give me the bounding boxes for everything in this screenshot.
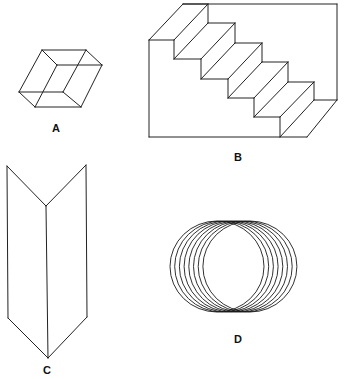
figure-edge	[174, 4, 208, 40]
figure-edge	[63, 50, 86, 92]
figure-edge	[81, 65, 102, 107]
figure-a-rhombic-cube	[19, 50, 102, 107]
figure-edge	[228, 43, 262, 79]
figure-edge	[254, 82, 288, 117]
figure-b-label: B	[234, 152, 242, 163]
figure-edge	[149, 4, 183, 40]
figure-edge	[19, 50, 42, 92]
figure-edge	[254, 62, 288, 98]
figure-edge	[48, 317, 87, 358]
figure-d-label: D	[234, 334, 242, 345]
figure-edge	[42, 50, 57, 65]
figure-b-schroder-staircase	[149, 4, 337, 137]
figure-edge	[86, 50, 102, 65]
figure-edge	[19, 92, 35, 107]
figure-d-overlapping-rings	[170, 221, 297, 312]
figure-c-folded-card	[7, 165, 87, 358]
ambiguous-figures-diagram	[0, 0, 346, 379]
figure-edge	[7, 166, 8, 318]
figure-edge	[280, 82, 314, 117]
figure-edge	[7, 166, 46, 206]
figure-edge	[201, 23, 235, 59]
figure-edge	[307, 100, 337, 137]
figure-edge	[8, 318, 48, 358]
figure-edge	[46, 206, 48, 358]
figure-edge	[35, 65, 57, 107]
figure-edge	[228, 62, 262, 98]
figure-edge	[46, 165, 86, 206]
figure-edge	[201, 43, 235, 79]
figure-a-label: A	[52, 123, 60, 134]
figure-edge	[63, 92, 81, 107]
figure-c-label: C	[43, 365, 51, 376]
figure-edge	[86, 165, 87, 317]
figure-edge	[174, 23, 208, 59]
figure-edge	[280, 100, 314, 137]
